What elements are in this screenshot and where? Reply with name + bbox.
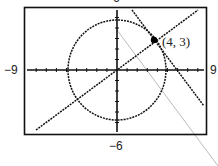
tangent-point [151, 37, 157, 43]
guide-line [117, 30, 218, 166]
graph-screen [0, 0, 218, 166]
tangent-line [132, 10, 204, 106]
point-label: (4, 3) [162, 35, 190, 48]
